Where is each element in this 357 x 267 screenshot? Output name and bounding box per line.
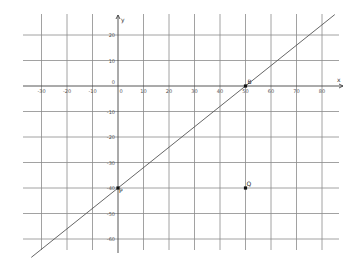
x-tick-label: 10 (140, 88, 146, 94)
line-pb (31, 15, 334, 258)
axes (23, 15, 343, 253)
x-tick-label: -10 (88, 88, 96, 94)
x-tick-label: 30 (191, 88, 197, 94)
y-tick-label: -10 (107, 109, 115, 115)
y-axis-label: y (121, 16, 125, 24)
y-tick-label: -40 (107, 185, 115, 191)
x-axis-label: x (337, 76, 341, 83)
origin-x-label: 0 (119, 88, 122, 94)
point-p-label: P (119, 187, 123, 194)
x-tick-label: 60 (268, 88, 274, 94)
x-tick-label: -20 (63, 88, 71, 94)
point-q-label: Q (247, 180, 252, 187)
y-tick-label: -60 (107, 236, 115, 242)
coordinate-plane: -30-20-1010203040506070802010-10-20-30-4… (0, 0, 357, 267)
x-tick-label: 80 (319, 88, 325, 94)
tick-labels: -30-20-1010203040506070802010-10-20-30-4… (37, 16, 341, 242)
x-tick-label: -30 (37, 88, 45, 94)
y-tick-label: -50 (107, 211, 115, 217)
y-tick-label: -20 (107, 134, 115, 140)
x-tick-label: 40 (217, 88, 223, 94)
origin-label: 0 (112, 79, 115, 85)
y-tick-label: 10 (109, 58, 115, 64)
y-tick-label: 20 (109, 32, 115, 38)
x-tick-label: 20 (166, 88, 172, 94)
x-tick-label: 70 (293, 88, 299, 94)
point-b-label: B (248, 78, 252, 85)
plotted-line (31, 15, 334, 258)
x-tick-label: 50 (242, 88, 248, 94)
points: BPQ (116, 78, 251, 194)
y-tick-label: -30 (107, 160, 115, 166)
